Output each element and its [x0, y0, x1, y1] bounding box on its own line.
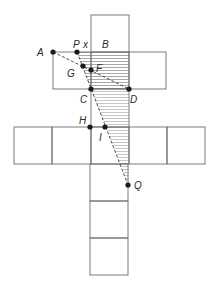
point-Q	[125, 182, 130, 187]
label-Q: Q	[134, 180, 142, 191]
square-bottom-3	[90, 238, 128, 275]
square-lower-4	[129, 127, 167, 164]
label-B: B	[102, 39, 109, 50]
cube-net-diagram: A P x B G F C D H I Q	[0, 0, 215, 284]
square-upper-right	[129, 52, 166, 89]
label-A: A	[36, 47, 44, 58]
point-C	[88, 86, 93, 91]
point-F	[88, 67, 93, 72]
square-top	[91, 15, 129, 52]
label-G: G	[67, 68, 75, 79]
label-F: F	[96, 63, 103, 74]
square-lower-1	[14, 127, 52, 164]
point-A	[50, 49, 55, 54]
label-I: I	[99, 132, 102, 143]
point-I	[102, 124, 107, 129]
label-C: C	[80, 94, 88, 105]
point-D	[126, 86, 131, 91]
point-H	[87, 124, 92, 129]
square-bottom-2	[90, 201, 128, 238]
label-x: x	[82, 39, 89, 50]
label-P: P	[73, 39, 80, 50]
label-H: H	[79, 115, 87, 126]
point-P	[74, 49, 79, 54]
point-G	[80, 63, 85, 68]
square-lower-2	[52, 127, 91, 164]
square-lower-5	[167, 127, 205, 164]
label-D: D	[130, 94, 137, 105]
